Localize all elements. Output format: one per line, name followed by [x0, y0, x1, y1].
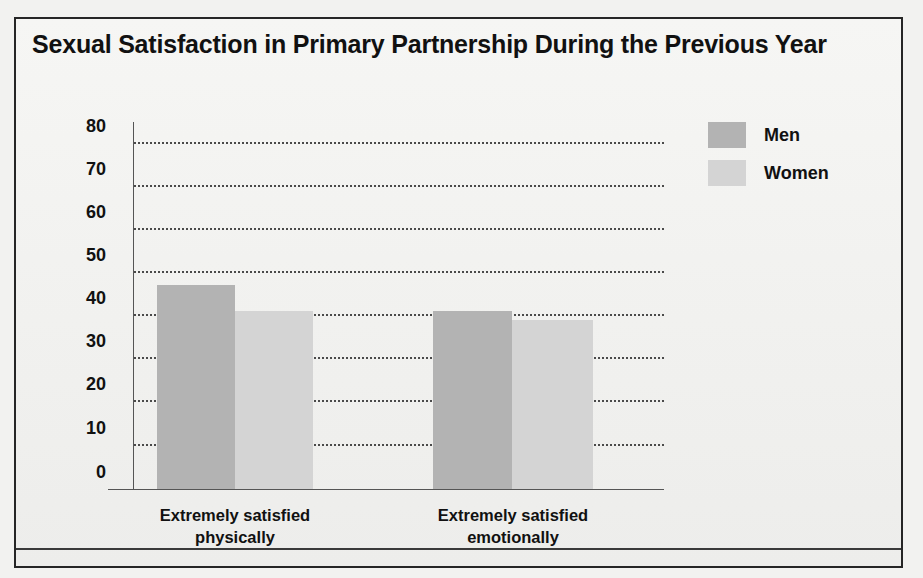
legend-swatch-women	[708, 160, 746, 186]
legend-item-men: Men	[708, 116, 888, 154]
bars-layer	[0, 0, 923, 489]
bar-women-physically	[235, 311, 313, 489]
legend-label-women: Women	[764, 163, 829, 184]
x-category-label-physically-line1: Extremely satisfied	[120, 504, 350, 526]
bar-women-emotionally	[512, 320, 593, 489]
x-category-label-emotionally: Extremely satisfied emotionally	[398, 504, 628, 549]
bar-men-emotionally	[433, 311, 512, 489]
figure-container: Sexual Satisfaction in Primary Partnersh…	[0, 0, 923, 578]
x-category-label-physically: Extremely satisfied physically	[120, 504, 350, 549]
legend-label-men: Men	[764, 125, 800, 146]
legend-swatch-men	[708, 122, 746, 148]
bar-men-physically	[157, 285, 235, 489]
x-category-label-emotionally-line2: emotionally	[398, 526, 628, 548]
legend: Men Women	[708, 116, 888, 192]
x-category-label-physically-line2: physically	[120, 526, 350, 548]
legend-item-women: Women	[708, 154, 888, 192]
x-category-label-emotionally-line1: Extremely satisfied	[398, 504, 628, 526]
